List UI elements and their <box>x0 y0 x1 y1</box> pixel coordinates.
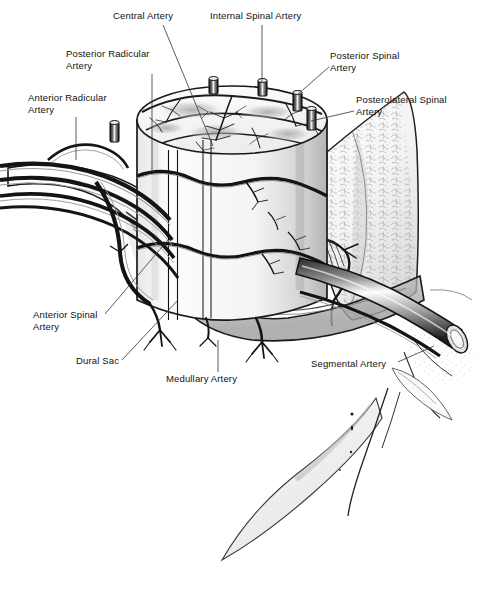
vessel-stub-2 <box>258 79 267 97</box>
vessel-stub-4 <box>307 107 316 131</box>
label-posterior-radicular-artery: Posterior Radicular Artery <box>66 48 150 71</box>
label-internal-spinal-artery: Internal Spinal Artery <box>210 10 302 22</box>
lower-vertebral-process <box>210 340 452 570</box>
label-anterior-radicular-artery: Anterior Radicular Artery <box>28 92 107 115</box>
label-posterior-spinal-artery: Posterior Spinal Artery <box>330 50 399 73</box>
label-central-artery: Central Artery <box>113 10 173 22</box>
vessel-stub-1 <box>209 77 218 95</box>
leader-dural-sac <box>122 300 178 360</box>
label-medullary-artery: Medullary Artery <box>166 373 237 385</box>
vessel-stub-3 <box>293 91 302 112</box>
label-segmental-artery: Segmental Artery <box>311 358 386 370</box>
label-anterior-spinal-artery: Anterior Spinal Artery <box>33 309 98 332</box>
label-posterolateral-spinal-artery: Posterolateral Spinal Artery <box>356 94 447 117</box>
vessel-stub-anterior <box>110 121 119 143</box>
anatomical-figure: Central Artery Internal Spinal Artery Po… <box>0 0 500 615</box>
label-dural-sac: Dural Sac <box>76 355 119 367</box>
leader-posterior-spinal-artery <box>297 67 329 95</box>
